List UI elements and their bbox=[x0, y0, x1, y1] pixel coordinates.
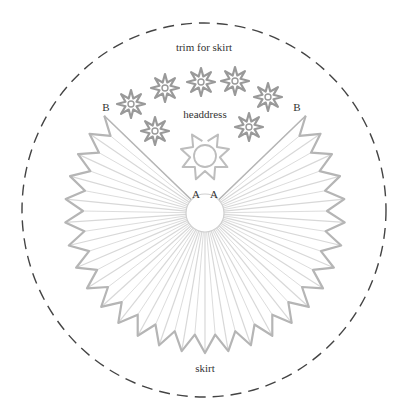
pleat-line bbox=[221, 134, 321, 202]
trim-star-icon bbox=[141, 117, 169, 145]
pleat-line bbox=[87, 223, 189, 288]
headdress-pattern bbox=[181, 135, 229, 180]
trim-star-icon bbox=[254, 83, 282, 111]
pleat-line bbox=[90, 134, 190, 202]
pleat-line bbox=[223, 176, 340, 208]
pattern-drawing bbox=[0, 0, 407, 414]
point-a-left-label: A bbox=[192, 189, 200, 200]
trim-star-icon bbox=[187, 68, 215, 96]
skirt-pattern bbox=[65, 116, 344, 353]
trim-stars bbox=[117, 67, 282, 145]
pleat-fold-line bbox=[223, 219, 321, 251]
pleat-line bbox=[217, 228, 292, 323]
pleat-line bbox=[222, 154, 332, 205]
pleat-fold-line bbox=[89, 219, 187, 251]
pleat-line bbox=[221, 223, 323, 288]
pleat-fold-line bbox=[224, 211, 327, 213]
pleat-fold-line bbox=[156, 230, 198, 324]
headdress-star-outline bbox=[181, 135, 229, 180]
point-b-right-label: B bbox=[293, 102, 300, 113]
pleat-fold-line bbox=[83, 211, 186, 213]
pleat-fold-line bbox=[220, 136, 300, 201]
trim-star-icon bbox=[151, 74, 179, 102]
waist-circle bbox=[186, 194, 224, 232]
pleat-line bbox=[118, 228, 193, 323]
pleat-line bbox=[224, 199, 344, 211]
trim-star-icon bbox=[221, 67, 249, 95]
headdress-label: headdress bbox=[183, 109, 226, 120]
skirt-label: skirt bbox=[195, 363, 215, 374]
pleat-fold-line bbox=[215, 229, 272, 315]
pleat-line bbox=[70, 176, 187, 208]
point-a-right-label: A bbox=[210, 189, 218, 200]
trim-label: trim for skirt bbox=[176, 42, 232, 53]
pleat-line bbox=[78, 154, 188, 205]
pleat-fold-line bbox=[108, 225, 190, 287]
point-b-left-label: B bbox=[102, 102, 109, 113]
pleat-fold-line bbox=[110, 136, 190, 201]
pleat-fold-line bbox=[213, 230, 255, 324]
costume-pattern-diagram: trim for skirt headdress skirt A A B B bbox=[0, 0, 407, 414]
pleat-fold-line bbox=[138, 229, 195, 315]
trim-star-icon bbox=[235, 113, 263, 141]
trim-star-icon bbox=[117, 90, 145, 118]
headdress-head-opening bbox=[194, 145, 216, 167]
pleat-line bbox=[66, 199, 186, 211]
pleat-fold-line bbox=[220, 225, 302, 287]
